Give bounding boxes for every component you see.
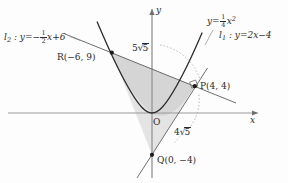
- line-l2-coef-denominator: 2: [40, 37, 46, 45]
- point-P-label: P(4, 4): [200, 82, 230, 91]
- length-RP-radicand: 5: [142, 43, 149, 53]
- line-l2-coefficient-fraction: 12: [40, 30, 46, 45]
- origin-label: O: [153, 118, 160, 127]
- point-Q-label: Q(0, −4): [157, 156, 196, 165]
- line-l2-coef-numerator: 1: [40, 30, 46, 37]
- geometry-figure: l2 : y=−12x+6 y=14x2 l1 : y=2x−4 R(−6, 9…: [0, 0, 288, 183]
- triangle-RQP: [112, 53, 195, 155]
- diagram-canvas: [0, 0, 288, 183]
- line-l1-separator: :: [226, 30, 235, 40]
- line-l2-rhs-tail: x+6: [47, 32, 65, 42]
- point-R-label: R(−6, 9): [57, 53, 96, 62]
- line-l2-rhs-lead: y=−: [20, 32, 40, 42]
- parabola-coefficient-fraction: 14: [220, 14, 226, 29]
- length-RP-radical: √5: [138, 43, 149, 53]
- parabola-coef-denominator: 4: [220, 21, 226, 29]
- parabola-equation-label: y=14x2: [207, 14, 236, 29]
- length-QP-radical: √5: [180, 127, 191, 137]
- x-axis-label: x: [250, 116, 255, 125]
- point-R-dot: [110, 51, 114, 55]
- leader-l2-label: [70, 37, 80, 41]
- line-l2-label: l2 : y=−12x+6: [4, 30, 65, 45]
- point-Q-dot: [150, 153, 154, 157]
- parabola-equals: =: [212, 16, 220, 26]
- y-axis-label: y: [156, 6, 161, 15]
- length-QP-label: 4√5: [174, 127, 191, 137]
- line-l1-label: l1 : y=2x−4: [219, 31, 272, 41]
- length-RP-label: 5√5: [132, 43, 149, 53]
- y-axis-arrow: [149, 9, 154, 15]
- parabola-exponent: 2: [232, 15, 236, 23]
- length-QP-radicand: 5: [184, 127, 191, 137]
- line-l2-separator: :: [11, 32, 20, 42]
- parabola-coef-numerator: 1: [220, 14, 226, 21]
- point-P-dot: [193, 84, 197, 88]
- leader-l1-label: [205, 30, 213, 45]
- line-l1-rhs: y=2x−4: [235, 30, 272, 40]
